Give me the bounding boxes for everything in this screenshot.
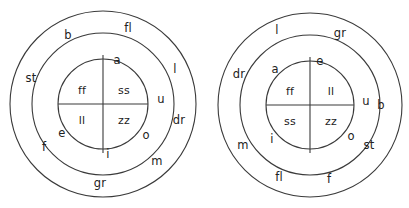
figure-canvas: ff ss ll zz a u o i e fl b st l dr m gr … xyxy=(0,0,409,208)
right-inner-quadrant-top-right-label: ll xyxy=(328,86,335,97)
right-outer-ring-label-b: b xyxy=(377,100,385,112)
right-inner-quadrant-bottom-right-label: zz xyxy=(325,116,337,127)
right-middle-ring-label-a: a xyxy=(271,64,278,76)
right-outer-ring-label-dr: dr xyxy=(233,69,245,81)
right-outer-ring-label-st: st xyxy=(364,140,375,152)
right-ring-shapes xyxy=(0,0,409,208)
right-middle-ring-label-i: i xyxy=(270,134,273,146)
right-middle-ring-label-o: o xyxy=(347,131,354,143)
right-outer-ring-label-l: l xyxy=(275,25,278,37)
right-syllable-ring-diagram: ff ll ss zz e a u o i l gr dr b st f fl … xyxy=(0,0,409,208)
right-outer-ring-label-f: f xyxy=(327,174,331,186)
right-middle-ring-label-u: u xyxy=(362,96,370,108)
right-outer-ring-label-fl: fl xyxy=(275,172,283,184)
right-middle-ring-label-e: e xyxy=(316,56,323,68)
right-inner-quadrant-top-left-label: ff xyxy=(286,86,294,97)
right-outer-ring-label-m: m xyxy=(237,140,248,152)
right-outer-ring-label-gr: gr xyxy=(334,28,346,40)
right-inner-quadrant-bottom-left-label: ss xyxy=(284,116,296,127)
